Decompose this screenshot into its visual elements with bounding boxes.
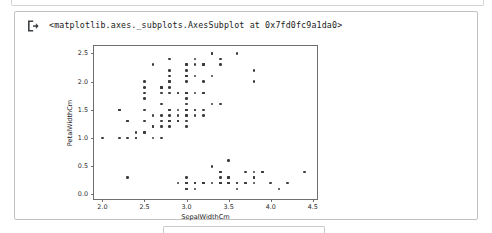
scatter-point xyxy=(185,103,188,106)
scatter-point xyxy=(194,75,197,78)
scatter-point xyxy=(194,63,197,66)
notebook-output-cell[interactable]: <matplotlib.axes._subplots.AxesSubplot a… xyxy=(14,11,478,220)
scatter-point xyxy=(202,109,205,112)
y-tick-mark xyxy=(91,82,94,83)
scatter-point xyxy=(185,92,188,95)
scatter-point xyxy=(160,120,163,123)
scatter-point xyxy=(168,125,171,128)
x-tick-label: 3.5 xyxy=(224,203,234,211)
scatter-point xyxy=(194,109,197,112)
scatter-plot-area xyxy=(94,46,317,199)
scatter-point xyxy=(219,171,222,174)
scatter-point xyxy=(219,103,222,106)
scatter-point xyxy=(303,171,306,174)
scatter-point xyxy=(185,188,188,191)
scatter-point xyxy=(202,92,205,95)
x-tick-mark xyxy=(313,199,314,202)
scatter-point xyxy=(160,125,163,128)
scatter-point xyxy=(286,182,289,185)
scatter-point xyxy=(126,137,129,140)
scatter-point xyxy=(278,188,281,191)
scatter-point xyxy=(244,182,247,185)
y-tick-label: 1.0 xyxy=(78,134,88,142)
scatter-point xyxy=(227,159,230,162)
scatter-point xyxy=(168,86,171,89)
scatter-point xyxy=(185,125,188,128)
scatter-point xyxy=(202,63,205,66)
y-tick-mark xyxy=(91,110,94,111)
y-tick-mark xyxy=(91,138,94,139)
scatter-point xyxy=(177,109,180,112)
x-tick-mark xyxy=(144,199,145,202)
x-tick-mark xyxy=(229,199,230,202)
x-axis-label: SepalWidthCm xyxy=(181,213,229,221)
scatter-point xyxy=(227,182,230,185)
scatter-point xyxy=(236,52,239,55)
scatter-point xyxy=(253,176,256,179)
scatter-point xyxy=(244,171,247,174)
scatter-point xyxy=(236,188,239,191)
scatter-point xyxy=(227,176,230,179)
scatter-point xyxy=(211,165,214,168)
adjacent-cell-top-sliver xyxy=(11,0,484,6)
scatter-point xyxy=(160,114,163,117)
scatter-point xyxy=(219,63,222,66)
scatter-point xyxy=(143,86,146,89)
x-tick-label: 2.0 xyxy=(97,203,107,211)
matplotlib-figure: 2.02.53.03.54.04.5 0.00.51.01.52.02.5 Se… xyxy=(59,34,339,214)
y-tick-label: 2.0 xyxy=(78,78,88,86)
scatter-point xyxy=(143,109,146,112)
scatter-point xyxy=(185,75,188,78)
scatter-point xyxy=(168,114,171,117)
scatter-point xyxy=(194,182,197,185)
scatter-point xyxy=(261,171,264,174)
scatter-point xyxy=(177,182,180,185)
plot-axes-frame: 2.02.53.03.54.04.5 0.00.51.01.52.02.5 Se… xyxy=(93,45,318,200)
scatter-point xyxy=(143,97,146,100)
scatter-point xyxy=(135,137,138,140)
output-arrow-icon xyxy=(25,18,41,34)
scatter-point xyxy=(177,120,180,123)
scatter-point xyxy=(202,114,205,117)
scatter-point xyxy=(168,58,171,61)
scatter-point xyxy=(177,114,180,117)
scatter-point xyxy=(211,75,214,78)
scatter-point xyxy=(185,63,188,66)
scatter-point xyxy=(269,182,272,185)
adjacent-cell-bottom-sliver xyxy=(163,226,325,233)
y-tick-label: 0.0 xyxy=(78,190,88,198)
scatter-point xyxy=(177,92,180,95)
scatter-point xyxy=(152,125,155,128)
scatter-point xyxy=(194,92,197,95)
y-tick-label: 2.5 xyxy=(78,49,88,57)
scatter-point xyxy=(185,80,188,83)
y-tick-mark xyxy=(91,53,94,54)
scatter-point xyxy=(253,182,256,185)
scatter-point xyxy=(168,109,171,112)
y-tick-label: 0.5 xyxy=(78,162,88,170)
y-axis-label: PetalWidthCm xyxy=(66,99,74,145)
scatter-point xyxy=(202,80,205,83)
scatter-point xyxy=(152,137,155,140)
scatter-point xyxy=(160,86,163,89)
scatter-point xyxy=(168,92,171,95)
x-tick-label: 2.5 xyxy=(139,203,149,211)
scatter-point xyxy=(168,80,171,83)
y-tick-mark xyxy=(91,166,94,167)
scatter-point xyxy=(168,69,171,72)
scatter-point xyxy=(135,131,138,134)
scatter-point xyxy=(185,176,188,179)
x-tick-mark xyxy=(187,199,188,202)
scatter-point xyxy=(152,114,155,117)
scatter-point xyxy=(253,80,256,83)
scatter-point xyxy=(253,171,256,174)
scatter-point xyxy=(185,182,188,185)
scatter-point xyxy=(160,137,163,140)
scatter-point xyxy=(143,120,146,123)
scatter-point xyxy=(118,137,121,140)
scatter-point xyxy=(185,114,188,117)
scatter-point xyxy=(219,182,222,185)
scatter-point xyxy=(211,103,214,106)
scatter-point xyxy=(160,92,163,95)
scatter-point xyxy=(185,69,188,72)
